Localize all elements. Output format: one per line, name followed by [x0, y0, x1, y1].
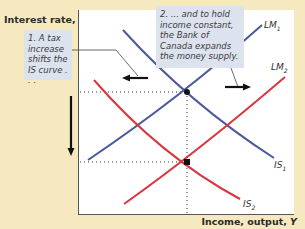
- is2-curve: [94, 80, 240, 199]
- diagram: Interest rate, r 1. A tax i: [0, 0, 305, 229]
- arrow-right-icon: [225, 84, 251, 91]
- label-is2: IS2: [243, 199, 255, 211]
- lm2-curve: [124, 77, 285, 204]
- x-axis-label: Income, output, Y: [202, 216, 297, 227]
- callout1-leader: [72, 50, 138, 76]
- label-lm2: LM2: [271, 62, 288, 74]
- label-is1: IS1: [274, 160, 286, 172]
- callout-tax-increase: 1. A tax increase shifts the IS curve . …: [24, 30, 72, 80]
- equilibrium-point-final: [184, 159, 190, 165]
- equilibrium-point-initial: [184, 89, 190, 95]
- callout2-leader: [231, 68, 238, 87]
- label-lm1: LM1: [264, 20, 281, 32]
- arrow-down-icon: [68, 96, 75, 156]
- callout-money-supply: 2. ... and to hold income constant, the …: [156, 6, 244, 68]
- arrow-left-icon: [122, 75, 148, 82]
